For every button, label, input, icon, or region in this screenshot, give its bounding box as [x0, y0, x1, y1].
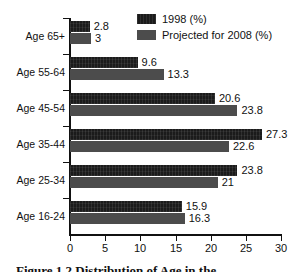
bar-2008-age-45-54: [70, 105, 237, 116]
legend-label-projected-2008: Projected for 2008 (%): [162, 29, 272, 41]
legend-item-projected-2008: Projected for 2008 (%): [137, 28, 272, 41]
bar-value-1998-age-45-54: 20.6: [219, 93, 240, 104]
x-axis-tick: [70, 235, 71, 241]
legend-swatch-gray-icon: [137, 30, 156, 40]
bar-2008-age-65-plus: [70, 33, 91, 44]
bar-value-1998-age-25-34: 23.8: [241, 165, 262, 176]
legend-label-1998: 1998 (%): [162, 13, 207, 25]
bar-1998-age-55-64: [70, 57, 138, 68]
bar-value-2008-age-25-34: 21: [222, 177, 234, 188]
category-label-age-25-34: Age 25-34: [17, 174, 69, 186]
category-label-age-35-44: Age 35-44: [17, 138, 69, 150]
bar-value-2008-age-16-24: 16.3: [189, 213, 210, 224]
x-axis-tick: [281, 235, 282, 241]
bar-1998-age-16-24: [70, 201, 182, 212]
bar-value-2008-age-45-54: 23.8: [241, 105, 262, 116]
x-axis-tick: [105, 235, 106, 241]
x-axis-tick-label: 25: [233, 242, 259, 254]
x-axis-tick-label: 15: [163, 242, 189, 254]
bar-value-2008-age-35-44: 22.6: [233, 141, 254, 152]
x-axis-tick: [140, 235, 141, 241]
bar-1998-age-35-44: [70, 129, 262, 140]
bar-value-1998-age-16-24: 15.9: [186, 201, 207, 212]
category-label-age-16-24: Age 16-24: [17, 210, 69, 222]
x-axis-tick-label: 10: [127, 242, 153, 254]
y-axis-tick: [63, 90, 69, 91]
x-axis-tick: [246, 235, 247, 241]
y-axis-tick: [63, 198, 69, 199]
x-axis-tick: [176, 235, 177, 241]
bar-2008-age-55-64: [70, 69, 164, 80]
bar-value-2008-age-55-64: 13.3: [168, 69, 189, 80]
legend-item-1998: 1998 (%): [137, 12, 272, 25]
bar-1998-age-45-54: [70, 93, 215, 104]
bar-2008-age-25-34: [70, 177, 218, 188]
x-axis-tick-label: 5: [92, 242, 118, 254]
bar-1998-age-25-34: [70, 165, 237, 176]
figure-container: 0 5 10 15 20 25 30 Age 65+ Age 55-64 Age…: [0, 0, 296, 272]
legend-swatch-dark-icon: [137, 14, 156, 24]
category-label-age-55-64: Age 55-64: [17, 66, 69, 78]
y-axis-tick: [63, 18, 69, 19]
bar-value-1998-age-55-64: 9.6: [142, 57, 157, 68]
chart-legend: 1998 (%) Projected for 2008 (%): [137, 12, 272, 44]
x-axis-tick: [211, 235, 212, 241]
bar-2008-age-35-44: [70, 141, 229, 152]
bar-value-1998-age-35-44: 27.3: [266, 129, 287, 140]
category-label-age-65-plus: Age 65+: [26, 30, 69, 42]
y-axis-tick: [63, 126, 69, 127]
bar-2008-age-16-24: [70, 213, 185, 224]
bar-value-2008-age-65-plus: 3: [95, 33, 101, 44]
bar-1998-age-65-plus: [70, 21, 90, 32]
x-axis-tick-label: 20: [198, 242, 224, 254]
figure-caption: Figure 1.2 Distribution of Age in the: [16, 263, 296, 272]
bar-value-1998-age-65-plus: 2.8: [94, 21, 109, 32]
y-axis-tick: [63, 162, 69, 163]
y-axis-tick: [63, 54, 69, 55]
category-label-age-45-54: Age 45-54: [17, 102, 69, 114]
x-axis-tick-label: 30: [268, 242, 294, 254]
x-axis-tick-label: 0: [57, 242, 83, 254]
